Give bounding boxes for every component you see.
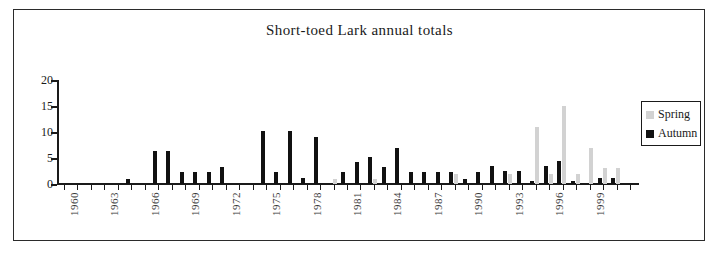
x-tick-mark [145, 185, 146, 190]
x-tick-mark [455, 185, 456, 190]
bar-autumn [207, 172, 211, 184]
bar-spring [603, 168, 607, 184]
bar-spring [535, 127, 539, 184]
x-tick-mark [320, 185, 321, 190]
y-tick-label: 0 [47, 177, 53, 192]
chart-legend: SpringAutumn [641, 101, 701, 146]
bar-autumn [598, 178, 602, 184]
x-tick-label: 1993 [513, 192, 525, 216]
x-tick-label: 1963 [108, 192, 120, 216]
bar-autumn [422, 172, 426, 184]
chart-page: Short-toed Lark annual totals 05101520 1… [0, 0, 719, 258]
bar-spring [333, 179, 337, 184]
x-tick-mark [77, 185, 78, 190]
x-tick-mark [347, 185, 348, 190]
x-tick-mark [293, 185, 294, 190]
bar-autumn [193, 172, 197, 184]
x-tick-mark [482, 185, 483, 190]
x-tick-mark [91, 185, 92, 190]
x-tick-mark [563, 185, 564, 190]
y-tick-label: 20 [41, 73, 53, 88]
x-tick-mark [522, 185, 523, 190]
x-tick-label: 1999 [594, 192, 606, 216]
bar-autumn [274, 172, 278, 184]
x-tick-mark [226, 185, 227, 190]
bar-autumn [530, 181, 534, 184]
bar-autumn [436, 172, 440, 184]
x-tick-mark [280, 185, 281, 190]
x-tick-mark [239, 185, 240, 190]
plot-area: 05101520 [57, 80, 637, 184]
x-tick-mark [253, 185, 254, 190]
bar-spring [589, 148, 593, 184]
x-tick-mark [576, 185, 577, 190]
bar-autumn [490, 166, 494, 184]
x-tick-label: 1987 [432, 192, 444, 216]
x-tick-mark [307, 185, 308, 190]
chart-title: Short-toed Lark annual totals [0, 22, 719, 39]
bar-autumn [571, 181, 575, 184]
bar-spring [576, 174, 580, 184]
bar-autumn [449, 172, 453, 184]
x-tick-mark [104, 185, 105, 190]
bar-autumn [180, 172, 184, 184]
x-tick-mark [428, 185, 429, 190]
legend-swatch-icon [646, 111, 654, 119]
bar-spring [616, 168, 620, 184]
legend-label: Spring [658, 107, 690, 122]
bar-autumn [220, 167, 224, 184]
x-tick-mark [360, 185, 361, 190]
x-tick-mark [64, 185, 65, 190]
x-tick-mark [172, 185, 173, 190]
x-tick-mark [158, 185, 159, 190]
x-tick-mark [509, 185, 510, 190]
x-tick-mark [334, 185, 335, 190]
bar-autumn [476, 172, 480, 184]
bar-autumn [341, 172, 345, 184]
bar-autumn [557, 161, 561, 184]
bar-autumn [611, 178, 615, 184]
bar-autumn [544, 166, 548, 184]
bar-autumn [409, 172, 413, 184]
x-tick-label: 1975 [270, 192, 282, 216]
x-tick-mark [131, 185, 132, 190]
legend-item: Spring [646, 105, 696, 124]
x-tick-label: 1972 [230, 192, 242, 216]
x-tick-mark [441, 185, 442, 190]
x-tick-label: 1969 [189, 192, 201, 216]
x-tick-mark [387, 185, 388, 190]
bar-autumn [166, 151, 170, 184]
bar-autumn [517, 171, 521, 184]
x-tick-mark [468, 185, 469, 190]
bar-autumn [368, 157, 372, 184]
bar-autumn [355, 162, 359, 184]
legend-label: Autumn [658, 126, 697, 141]
bar-autumn [301, 178, 305, 184]
x-tick-label: 1996 [553, 192, 565, 216]
x-tick-mark [266, 185, 267, 190]
bar-autumn [126, 179, 130, 184]
x-tick-mark [401, 185, 402, 190]
x-tick-mark [549, 185, 550, 190]
x-tick-mark [374, 185, 375, 190]
x-tick-label: 1960 [68, 192, 80, 216]
bar-spring [373, 179, 377, 184]
y-tick-label: 10 [41, 125, 53, 140]
x-tick-label: 1978 [311, 192, 323, 216]
bar-autumn [463, 179, 467, 184]
bar-spring [508, 174, 512, 184]
x-tick-mark [495, 185, 496, 190]
x-tick-mark [590, 185, 591, 190]
x-tick-label: 1966 [149, 192, 161, 216]
bar-autumn [314, 137, 318, 184]
x-tick-label: 1990 [472, 192, 484, 216]
x-tick-mark [603, 185, 604, 190]
x-tick-mark [414, 185, 415, 190]
bar-autumn [261, 131, 265, 184]
bar-spring [454, 174, 458, 184]
bar-spring [562, 106, 566, 184]
legend-item: Autumn [646, 124, 696, 143]
x-tick-mark [617, 185, 618, 190]
x-tick-mark [212, 185, 213, 190]
x-tick-mark [630, 185, 631, 190]
